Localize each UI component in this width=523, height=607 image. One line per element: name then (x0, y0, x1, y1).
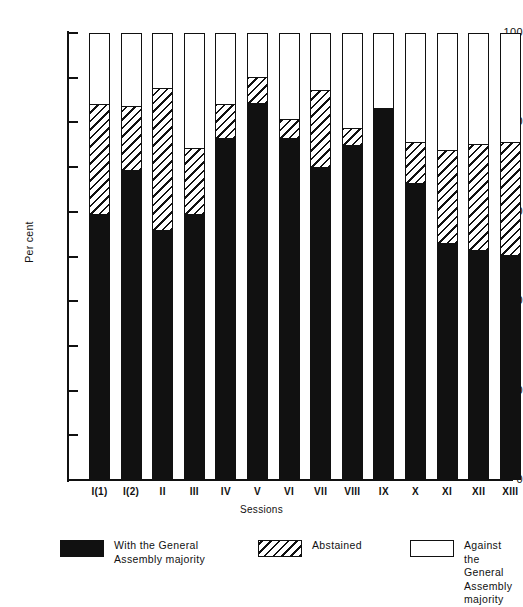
bar-segment-abstained (248, 77, 267, 104)
bar-segment-with (374, 108, 393, 479)
bar-stack (373, 33, 394, 480)
bar-segment-abstained (406, 142, 425, 184)
bar-segment-with (501, 256, 520, 480)
bar-stack (152, 33, 173, 480)
bar-stack (89, 33, 110, 480)
x-axis-tick-label: XIII (484, 486, 523, 497)
bar-stack (247, 33, 268, 480)
bar-segment-against (153, 34, 172, 90)
bar-segment-abstained (216, 104, 235, 140)
bar-segment-abstained (501, 142, 520, 256)
bar-segment-abstained (90, 104, 109, 216)
bar-stack (310, 33, 331, 480)
bar-segment-against (343, 34, 362, 130)
chart-legend: With the General Assembly majorityAbstai… (60, 539, 515, 583)
bar-segment-abstained (469, 144, 488, 251)
legend-label: With the General Assembly majority (114, 539, 205, 566)
bar-segment-abstained (438, 150, 457, 244)
legend-item: Abstained (258, 539, 362, 557)
legend-item: Against the General Assembly majority (410, 539, 515, 607)
bar-stack (437, 33, 458, 480)
bar-segment-abstained (280, 119, 299, 139)
bar-segment-with (280, 139, 299, 479)
hatched-swatch (258, 540, 302, 557)
bar-stack (405, 33, 426, 480)
bar-segment-against (438, 34, 457, 152)
bar-segment-with (343, 146, 362, 479)
bar-segment-with (90, 215, 109, 479)
bar-segment-against (374, 34, 393, 110)
bar-segment-against (501, 34, 520, 144)
bar-segment-abstained (122, 106, 141, 171)
bar-stack (342, 33, 363, 480)
bar-segment-abstained (311, 90, 330, 168)
bar-segment-with (122, 171, 141, 479)
bar-segment-with (248, 104, 267, 479)
bar-stack (184, 33, 205, 480)
legend-label: Against the General Assembly majority (464, 539, 515, 607)
bar-segment-against (248, 34, 267, 79)
legend-label: Abstained (312, 539, 362, 553)
bar-segment-against (216, 34, 235, 106)
bar-segment-against (90, 34, 109, 106)
plot-area (67, 33, 510, 480)
y-axis-title: Per cent (23, 207, 35, 277)
bar-stack (121, 33, 142, 480)
bar-stack (500, 33, 521, 480)
bar-segment-with (311, 168, 330, 479)
bar-segment-against (469, 34, 488, 146)
bar-segment-with (438, 244, 457, 479)
bar-stack (468, 33, 489, 480)
bar-segment-with (406, 184, 425, 479)
bar-segment-abstained (185, 148, 204, 215)
bar-segment-with (469, 251, 488, 479)
bar-stack (279, 33, 300, 480)
bar-segment-with (185, 215, 204, 479)
bar-segment-with (153, 231, 172, 479)
x-axis-title: Sessions (0, 504, 523, 515)
bar-segment-abstained (343, 128, 362, 146)
bar-segment-against (122, 34, 141, 108)
solid-black-swatch (60, 540, 104, 557)
bar-segment-against (280, 34, 299, 121)
bar-segment-against (406, 34, 425, 144)
white-swatch (410, 540, 454, 557)
bar-segment-with (216, 139, 235, 479)
bar-segment-against (185, 34, 204, 150)
bar-stack (215, 33, 236, 480)
bar-segment-against (311, 34, 330, 92)
bar-segment-abstained (153, 88, 172, 231)
legend-item: With the General Assembly majority (60, 539, 205, 566)
